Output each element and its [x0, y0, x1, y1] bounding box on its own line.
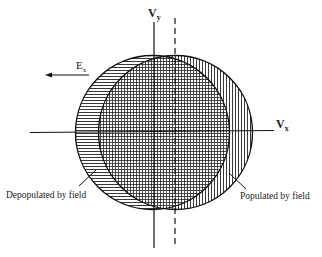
depopulated-label: Depopulated by field [6, 190, 86, 200]
field-label: Ex [76, 59, 87, 74]
diagram-canvas: Vy Vx Ex Depopulated by field Populated … [0, 0, 322, 257]
vx-axis-label: Vx [276, 117, 289, 133]
velocity-distribution-diagram: Vy Vx Ex Depopulated by field Populated … [0, 0, 322, 257]
arrowhead-left-icon [45, 73, 52, 78]
populated-label: Populated by field [240, 191, 310, 201]
vy-axis-label: Vy [148, 6, 161, 22]
